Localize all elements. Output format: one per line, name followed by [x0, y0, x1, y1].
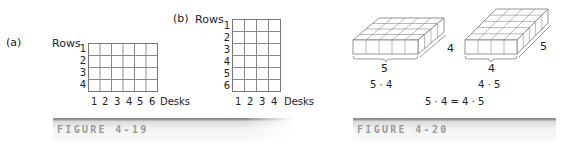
left-block-product: 5 · 4	[370, 79, 392, 90]
right-block-product: 4 · 5	[478, 79, 500, 90]
left-block-front-label: 5	[381, 62, 388, 75]
right-block-depth-label: 5	[540, 40, 547, 53]
figure-4-20-caption: FIGURE 4-20	[357, 124, 449, 135]
left-block-depth-label: 4	[447, 42, 454, 55]
commutative-equation: 5 · 4 = 4 · 5	[425, 96, 484, 107]
right-block-front-label: 4	[488, 62, 495, 75]
